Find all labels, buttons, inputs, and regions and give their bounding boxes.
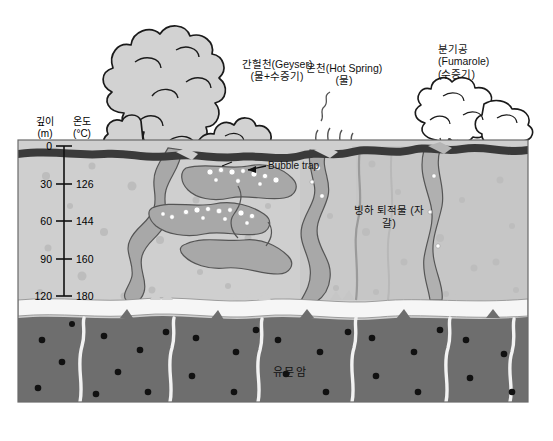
- fumarole-label-line3: (수증기): [438, 68, 510, 80]
- glacial-label-line1: 빙하 퇴적물: [354, 204, 407, 216]
- fumarole-label: 분기공 (Fumarole) (수증기): [438, 43, 510, 80]
- tick-depth-120: 120: [22, 290, 52, 302]
- tick-temp-180: 180: [76, 290, 106, 302]
- tick-temp-160: 160: [76, 253, 106, 265]
- axis-depth-header: 깊이 (m): [28, 116, 62, 140]
- fumarole-label-line2: (Fumarole): [438, 55, 510, 67]
- geothermal-diagram: 깊이 (m) 온도 (°C) 0 30 60 90 120 126 144 16…: [0, 0, 553, 441]
- hotspring-label-line1: 온천(Hot Spring): [306, 62, 383, 74]
- rhyolite-label: 유문암: [255, 363, 325, 379]
- tick-depth-90: 90: [22, 253, 52, 265]
- axis-depth-unit: (m): [38, 128, 53, 139]
- hotspring-label-line2: (물): [296, 74, 392, 86]
- axis-temp-unit: (°C): [73, 128, 91, 139]
- bubble-trap-label: Bubble trap: [268, 160, 319, 171]
- hotspring-label: 온천(Hot Spring) (물): [296, 62, 392, 87]
- tick-depth-0: 0: [22, 140, 52, 152]
- axis-temp-header: 온도 (°C): [64, 116, 100, 140]
- axis-temp-title: 온도: [73, 116, 91, 127]
- glacial-sediment-label: 빙하 퇴적물 (자갈): [352, 204, 426, 229]
- tick-temp-126: 126: [76, 178, 106, 190]
- tick-depth-60: 60: [22, 215, 52, 227]
- fumarole-label-line1: 분기공: [438, 43, 468, 55]
- tick-temp-144: 144: [76, 215, 106, 227]
- geyser-plume: [103, 26, 273, 156]
- axis-depth-title: 깊이: [36, 116, 54, 127]
- tick-depth-30: 30: [22, 178, 52, 190]
